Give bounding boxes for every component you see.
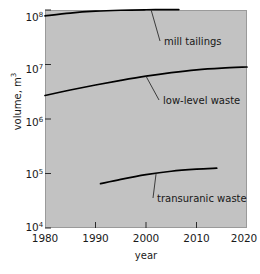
series-label-mill-tailings: mill tailings — [164, 36, 222, 47]
x-axis-title: year — [45, 250, 247, 261]
y-tick-label: 107 — [25, 64, 43, 75]
x-tick-label: 2010 — [183, 232, 209, 244]
series-label-transuranic-waste: transuranic waste — [157, 193, 247, 204]
chart-figure: 108 107 106 105 104 volume, m3 1980 1990… — [0, 0, 260, 274]
x-tick-label: 1990 — [82, 232, 108, 244]
y-tick-label: 105 — [25, 169, 43, 180]
x-tick-label: 2000 — [133, 232, 159, 244]
series-label-low-level-waste: low-level waste — [163, 95, 240, 106]
x-axis-tick-labels: 1980 1990 2000 2010 2020 — [0, 232, 260, 248]
y-axis-title: volume, m3 — [12, 47, 23, 157]
y-tick-label: 104 — [25, 222, 43, 233]
y-tick-label: 106 — [25, 117, 43, 128]
x-tick-label: 1980 — [32, 232, 58, 244]
x-tick-label: 2020 — [231, 232, 257, 244]
y-tick-label: 108 — [25, 12, 43, 23]
